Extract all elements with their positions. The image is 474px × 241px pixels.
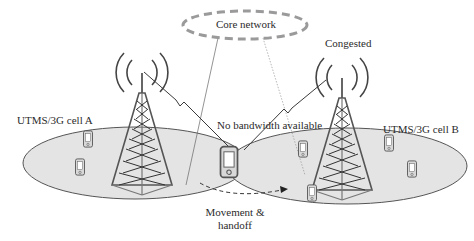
mobile-device-icon: [84, 131, 93, 147]
tower-a-icon: [112, 53, 172, 195]
movement-label-line1: Movement &: [205, 207, 265, 218]
mobile-device-icon: [385, 135, 394, 151]
handoff-device-icon: [221, 147, 238, 178]
cell-b-label: UTMS/3G cell B: [383, 124, 459, 135]
mobile-device-icon: [76, 159, 85, 175]
congested-label: Congested: [325, 38, 371, 49]
mobile-device-icon: [408, 161, 417, 177]
no-bandwidth-label: No bandwidth available: [217, 120, 322, 131]
mobile-device-icon: [299, 141, 308, 157]
movement-label-line2: handoff: [205, 220, 265, 231]
core-network-label: Core network: [214, 19, 278, 30]
cell-a-label: UTMS/3G cell A: [17, 115, 93, 126]
mobile-device-icon: [308, 185, 317, 201]
handoff-diagram: Core network Congested UTMS/3G cell A UT…: [0, 0, 474, 241]
